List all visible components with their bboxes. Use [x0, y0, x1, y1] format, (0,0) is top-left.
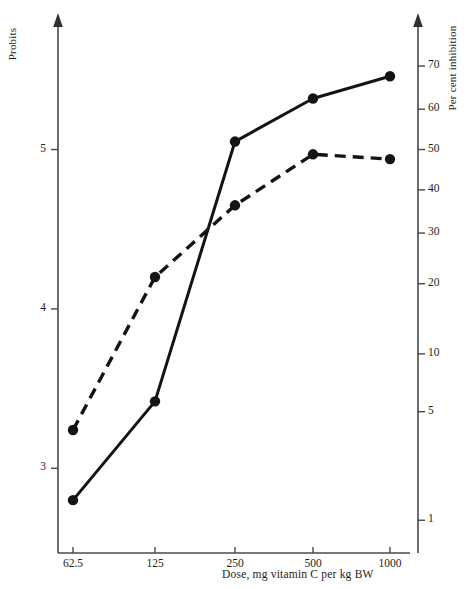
left-axis-ticks — [51, 150, 58, 469]
data-point — [385, 154, 395, 164]
right-tick-label: 70 — [428, 58, 468, 70]
data-point — [230, 136, 240, 146]
chart-canvas — [0, 0, 469, 589]
left-axis-title: Probits — [6, 14, 18, 74]
bottom-axis-ticks — [73, 547, 390, 553]
left-tick-label: 5 — [6, 142, 46, 154]
left-tick-label: 3 — [6, 460, 46, 472]
data-point — [230, 200, 240, 210]
right-tick-label: 40 — [428, 182, 468, 194]
bottom-tick-label: 500 — [288, 557, 338, 569]
right-tick-label: 20 — [428, 276, 468, 288]
x-axis-title: Dose, mg vitamin C per kg BW — [222, 568, 374, 580]
data-series-layer — [68, 71, 395, 505]
right-tick-label: 5 — [428, 404, 468, 416]
bottom-tick-label: 62.5 — [48, 557, 98, 569]
right-tick-label: 1 — [428, 512, 468, 524]
figure: Probits Per cent inhibition Dose, mg vit… — [0, 0, 469, 589]
right-tick-label: 10 — [428, 346, 468, 358]
data-point — [150, 396, 160, 406]
right-axis-ticks — [418, 66, 425, 520]
right-tick-label: 30 — [428, 225, 468, 237]
data-point — [385, 71, 395, 81]
data-point — [308, 93, 318, 103]
bottom-tick-label: 125 — [130, 557, 180, 569]
right-tick-label: 60 — [428, 101, 468, 113]
right-tick-label: 50 — [428, 142, 468, 154]
left-tick-label: 4 — [6, 301, 46, 313]
bottom-tick-label: 1000 — [365, 557, 415, 569]
bottom-tick-label: 250 — [210, 557, 260, 569]
data-point — [150, 272, 160, 282]
data-point — [308, 149, 318, 159]
data-point — [68, 495, 78, 505]
data-point — [68, 425, 78, 435]
left-axis — [53, 13, 63, 553]
series-line-dashed — [73, 154, 390, 430]
right-axis — [413, 13, 423, 553]
